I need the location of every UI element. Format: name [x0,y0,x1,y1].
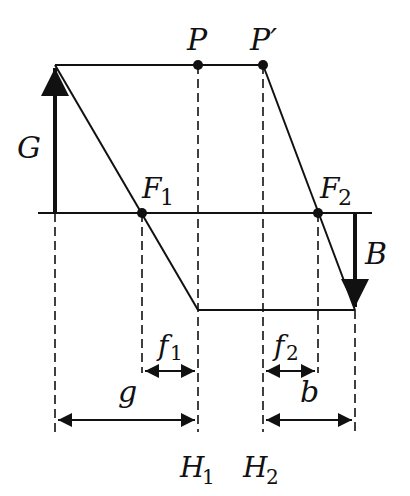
label-f1-sub: 1 [170,341,183,365]
label-B: B [364,236,387,271]
label-G: G [17,130,41,165]
label-P: P [186,22,208,57]
label-H2: H [242,451,268,484]
label-F2-sub: 2 [338,185,352,210]
optics-diagram: P P′ G F 1 F 2 B f 1 f 2 g b H 1 H 2 [0,0,410,496]
label-H2-sub: 2 [266,465,279,489]
ray-through-f1 [55,65,198,310]
point-P-prime [258,60,268,70]
label-f2-sub: 2 [286,341,299,365]
label-H1-sub: 1 [202,465,215,489]
point-F1 [137,208,147,218]
point-F2 [313,208,323,218]
rays [55,65,355,310]
label-P-prime: P′ [249,22,277,57]
label-b: b [300,374,319,409]
point-P [193,60,203,70]
label-F1-sub: 1 [160,185,174,210]
label-g: g [118,374,137,409]
